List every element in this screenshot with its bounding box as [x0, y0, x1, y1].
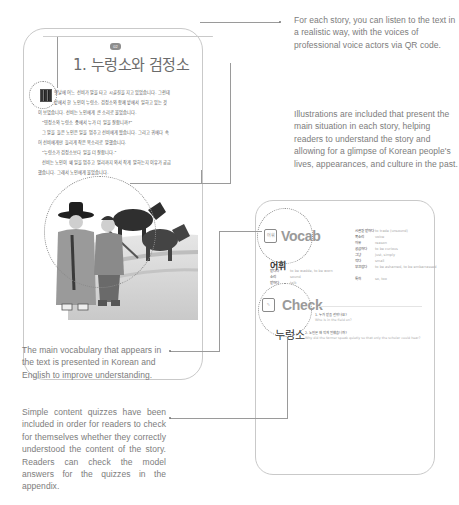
story-paragraph: 선비는 노인이 왜 일을 멈추고 멀리까지 와서 작게 말하는지 이유가 궁금 — [38, 158, 198, 168]
illustration-highlight-circle — [44, 176, 156, 288]
connector-line — [287, 338, 288, 418]
story-paragraph: 했습니다. 그래서 노인에게 물었습니다. — [38, 168, 198, 178]
vocab-item: 그냥just, simply — [355, 253, 395, 258]
vocab-item: 작다small — [355, 259, 384, 264]
vocabulary-annotation: The main vocabulary that appears in the … — [22, 344, 166, 381]
quiz-question: 1. 누가 밭을 갈았나요?Who is in the field on? — [315, 313, 352, 323]
handwritten-word: 누렁소 — [275, 326, 305, 342]
vocab-item: 부끄럽다to be ashamed, to be embarrassed — [355, 265, 436, 270]
vocab-item: 궁금하다to be curious — [355, 247, 398, 252]
vocab-item: 밭다다to be wadde, to be worn — [270, 269, 333, 274]
story-paragraph: "누렁소가 검정소보다 일을 더 잘합니다." — [38, 148, 198, 158]
vocab-item: 목소리voice — [355, 235, 384, 240]
story-paragraph: "영정소와 누렁소 중에서 누가 더 일을 잘합니까?" — [38, 118, 198, 128]
page-number-badge: 02 — [110, 43, 121, 50]
vocab-item: 이유reason — [355, 241, 387, 246]
connector-line — [201, 170, 202, 184]
connector-line — [130, 183, 230, 184]
story-paragraph: 그 말을 들은 노인은 일을 멈추고 선비에게 왔습니다. 그리고 귀에다 속 — [38, 128, 198, 138]
connector-line — [200, 22, 280, 23]
check-section-title: Check — [282, 297, 323, 313]
story-paragraph: 옛날에 어느 선비가 말을 타고 시골길을 지고 있었습니다. 그런데 — [38, 88, 198, 98]
connector-dot — [169, 417, 171, 419]
story-paragraph: 어 선비에게만 들리게 작은 목소리로 말했습니다. — [38, 138, 198, 148]
story-title: 1. 누렁소와 검정소 — [73, 53, 189, 74]
vocab-item: 소리sound — [270, 275, 301, 280]
connector-line — [230, 63, 231, 184]
connector-line — [170, 351, 220, 352]
vocab-section-title: Vocab — [281, 228, 320, 244]
connector-line — [57, 36, 58, 88]
connector-line — [219, 231, 220, 352]
quiz-question: 2. 노인은 왜 작게 말했습니까?Why did the farmer spe… — [305, 331, 420, 341]
vocab-item: 시골길 밭하다to trade (unsound) — [355, 229, 408, 234]
connector-dot — [169, 350, 171, 352]
vocab-item: 특히so, too — [355, 277, 387, 282]
connector-line — [219, 231, 262, 232]
divider — [318, 306, 422, 307]
story-body-text: 옛날에 어느 선비가 말을 타고 시골길을 지고 있었습니다. 그런데 밭에서 … — [38, 88, 198, 178]
story-paragraph: 이 보였습니다. 선비는 노인에게 큰 소리로 물었습니다. — [38, 108, 198, 118]
check-note-icon: ✎ — [262, 298, 275, 312]
quiz-annotation: Simple content quizzes have been include… — [22, 406, 166, 493]
connector-line — [57, 36, 212, 37]
connector-line — [170, 418, 288, 419]
illustration-annotation: Illustrations are included that present … — [294, 108, 459, 170]
qr-code-annotation: For each story, you can listen to the te… — [294, 14, 459, 51]
story-paragraph: 밭에서 한 노인이 누렁소, 검정소와 함께 밭에서 일하고 있는 것 — [38, 98, 198, 108]
connector-dot — [279, 21, 281, 23]
vocab-book-icon: 어휘 — [264, 229, 277, 243]
